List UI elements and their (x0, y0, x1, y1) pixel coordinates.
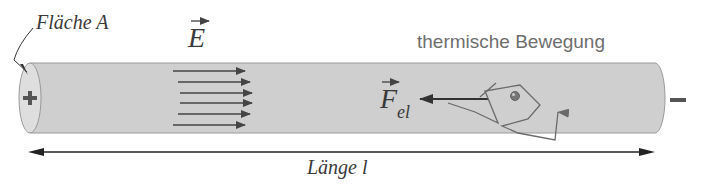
force-symbol: F (380, 83, 397, 114)
electric-field-label: E (188, 22, 205, 54)
minus-sign-icon (670, 98, 686, 102)
area-label: Fläche A (36, 11, 108, 34)
thermal-motion-label: thermische Bewegung (417, 31, 605, 53)
electron-particle (511, 92, 520, 101)
conductor-cylinder (19, 63, 665, 133)
length-label: Länge l (307, 156, 368, 179)
force-subscript: el (397, 102, 410, 122)
electric-force-label: Fel (380, 83, 410, 115)
length-dimension-arrow (28, 148, 655, 156)
